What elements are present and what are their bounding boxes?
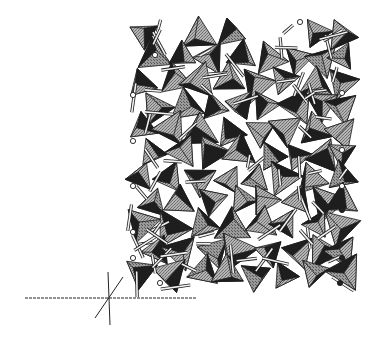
atom [130, 92, 135, 97]
crystal-structure-diagram [0, 0, 376, 341]
atom [130, 255, 135, 260]
atom [339, 207, 344, 212]
bond [185, 181, 205, 182]
atom [130, 183, 135, 188]
atom [339, 147, 344, 152]
atom [152, 52, 157, 57]
atom [339, 183, 344, 188]
atom [130, 229, 135, 234]
atom [297, 19, 302, 24]
bond [283, 25, 293, 33]
bond [136, 186, 147, 199]
polyhedra-layer [125, 16, 360, 292]
atom [157, 280, 162, 285]
bond [275, 47, 297, 48]
atom [339, 90, 344, 95]
atom [130, 138, 135, 143]
atom [339, 255, 344, 260]
atom [337, 280, 342, 285]
polyhedron-face [130, 27, 145, 50]
